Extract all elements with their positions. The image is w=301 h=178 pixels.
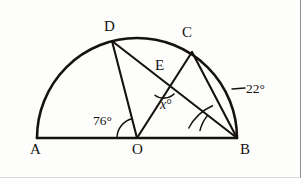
angle-label-22-degrees: 22° (246, 82, 265, 96)
leader-line-22-degree (232, 88, 245, 89)
point-label-C: C (182, 25, 192, 40)
segment-radius-OC (137, 52, 192, 138)
geometry-figure-page: A B C D E O 76° 22° x° (0, 0, 301, 178)
point-label-O: O (132, 142, 143, 157)
point-label-B: B (240, 142, 250, 157)
semicircle-arc (37, 38, 237, 138)
point-label-E: E (155, 58, 164, 73)
segment-radius-OD (112, 41, 137, 138)
angle-arc-AOD (117, 119, 132, 138)
angle-label-x-degrees: x° (160, 98, 172, 112)
angle-arc-CBD-inner (200, 116, 208, 132)
angle-label-76-degrees: 76° (93, 114, 112, 128)
segment-chord-DB (112, 41, 237, 138)
segment-chord-CB (192, 52, 237, 138)
point-label-D: D (104, 19, 115, 34)
point-label-A: A (30, 142, 41, 157)
angle-x-degree-sign: ° (166, 97, 172, 112)
